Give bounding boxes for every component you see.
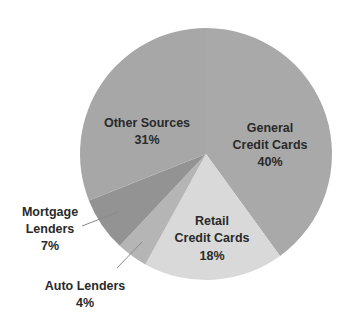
label-auto-line1: Auto Lenders (45, 279, 126, 293)
label-general-line1: General (247, 121, 294, 135)
label-auto-lenders: Auto Lenders 4% (45, 279, 126, 310)
label-general-line2: Credit Cards (232, 138, 307, 152)
pie-chart: General Credit Cards 40% Other Sources 3… (0, 0, 349, 323)
label-mortgage-line1: Mortgage (22, 205, 78, 219)
label-auto-pct: 4% (76, 296, 94, 310)
label-retail-pct: 18% (199, 249, 224, 263)
label-retail-line2: Credit Cards (174, 231, 249, 245)
label-mortgage-pct: 7% (41, 239, 59, 253)
label-retail-line1: Retail (195, 214, 229, 228)
label-general-pct: 40% (257, 155, 282, 169)
label-other-line1: Other Sources (104, 116, 190, 130)
label-mortgage-line2: Lenders (26, 222, 75, 236)
label-mortgage-lenders: Mortgage Lenders 7% (22, 205, 78, 253)
label-other-pct: 31% (134, 133, 159, 147)
